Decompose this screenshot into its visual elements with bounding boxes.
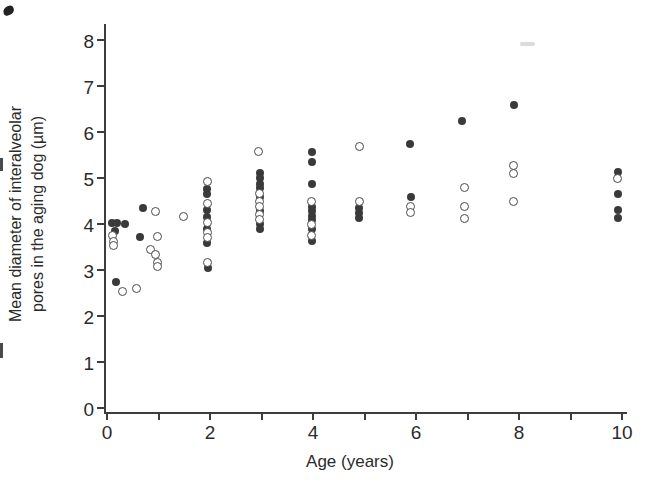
x-tick bbox=[209, 414, 211, 420]
data-point-open bbox=[254, 147, 263, 156]
chart-container: Mean diameter of interalveolar pores in … bbox=[0, 0, 649, 489]
x-axis-line bbox=[104, 412, 627, 414]
data-point-open bbox=[203, 199, 212, 208]
x-axis-label: Age (years) bbox=[250, 452, 450, 472]
x-tick-label: 0 bbox=[85, 423, 129, 442]
data-point-open bbox=[406, 208, 415, 217]
y-tick-label: 7 bbox=[60, 78, 94, 97]
data-point-open bbox=[307, 197, 316, 206]
data-point-open bbox=[203, 218, 212, 227]
data-point-solid bbox=[614, 206, 622, 214]
data-point-open bbox=[153, 262, 162, 271]
data-point-solid bbox=[256, 225, 264, 233]
y-tick-label: 6 bbox=[60, 124, 94, 143]
scan-artifact-edge bbox=[0, 343, 3, 358]
x-tick bbox=[415, 414, 417, 420]
x-tick bbox=[261, 414, 263, 420]
data-point-solid bbox=[510, 101, 518, 109]
data-point-solid bbox=[136, 233, 144, 241]
x-tick bbox=[621, 414, 623, 420]
data-point-solid bbox=[458, 117, 466, 125]
data-point-open bbox=[460, 214, 469, 223]
y-axis-label-line1: Mean diameter of interalveolar bbox=[7, 106, 24, 322]
y-tick bbox=[97, 85, 104, 87]
y-tick bbox=[97, 407, 104, 409]
data-point-solid bbox=[407, 193, 415, 201]
data-point-open bbox=[509, 161, 518, 170]
data-point-open bbox=[132, 284, 141, 293]
y-tick bbox=[97, 361, 104, 363]
data-point-open bbox=[153, 232, 162, 241]
data-point-open bbox=[307, 220, 316, 229]
x-tick bbox=[158, 414, 160, 420]
data-point-open bbox=[179, 212, 188, 221]
data-point-open bbox=[118, 287, 127, 296]
data-point-solid bbox=[355, 214, 363, 222]
x-tick-label: 2 bbox=[188, 423, 232, 442]
scan-artifact-corner bbox=[2, 4, 15, 16]
y-tick-label: 1 bbox=[60, 354, 94, 373]
data-point-open bbox=[151, 207, 160, 216]
scan-artifact-edge bbox=[0, 158, 3, 171]
y-tick-label: 0 bbox=[60, 400, 94, 419]
x-tick bbox=[570, 414, 572, 420]
x-tick-label: 4 bbox=[291, 423, 335, 442]
y-axis-label: Mean diameter of interalveolar pores in … bbox=[5, 47, 51, 381]
data-point-open bbox=[460, 183, 469, 192]
data-point-solid bbox=[203, 190, 211, 198]
data-point-solid bbox=[614, 190, 622, 198]
data-point-open bbox=[203, 177, 212, 186]
y-axis-label-line2: pores in the aging dog (µm) bbox=[29, 116, 46, 312]
y-tick bbox=[97, 39, 104, 41]
x-tick-label: 8 bbox=[497, 423, 541, 442]
data-point-solid bbox=[139, 204, 147, 212]
y-tick bbox=[97, 269, 104, 271]
data-point-open bbox=[613, 174, 622, 183]
data-point-solid bbox=[308, 180, 316, 188]
y-tick bbox=[97, 131, 104, 133]
x-tick-label: 6 bbox=[394, 423, 438, 442]
y-tick-label: 5 bbox=[60, 170, 94, 189]
data-point-open bbox=[307, 231, 316, 240]
y-tick-label: 8 bbox=[60, 32, 94, 51]
y-tick-label: 4 bbox=[60, 216, 94, 235]
data-point-open bbox=[355, 142, 364, 151]
data-point-solid bbox=[308, 158, 316, 166]
x-tick-label: 10 bbox=[600, 423, 644, 442]
data-point-open bbox=[509, 169, 518, 178]
x-tick bbox=[312, 414, 314, 420]
x-tick bbox=[364, 414, 366, 420]
data-point-solid bbox=[308, 148, 316, 156]
data-point-solid bbox=[112, 278, 120, 286]
data-point-solid bbox=[406, 140, 414, 148]
data-point-solid bbox=[614, 214, 622, 222]
data-point-open bbox=[460, 202, 469, 211]
y-tick-label: 2 bbox=[60, 308, 94, 327]
data-point-solid bbox=[121, 220, 129, 228]
data-point-open bbox=[203, 258, 212, 267]
x-tick bbox=[467, 414, 469, 420]
x-tick bbox=[518, 414, 520, 420]
y-tick bbox=[97, 223, 104, 225]
y-axis-line bbox=[104, 24, 106, 414]
data-point-open bbox=[509, 197, 518, 206]
scan-artifact-smudge bbox=[520, 42, 535, 46]
y-tick bbox=[97, 177, 104, 179]
y-tick-label: 3 bbox=[60, 262, 94, 281]
y-tick bbox=[97, 315, 104, 317]
data-point-open bbox=[255, 202, 264, 211]
x-tick bbox=[106, 414, 108, 420]
data-point-open bbox=[109, 241, 118, 250]
